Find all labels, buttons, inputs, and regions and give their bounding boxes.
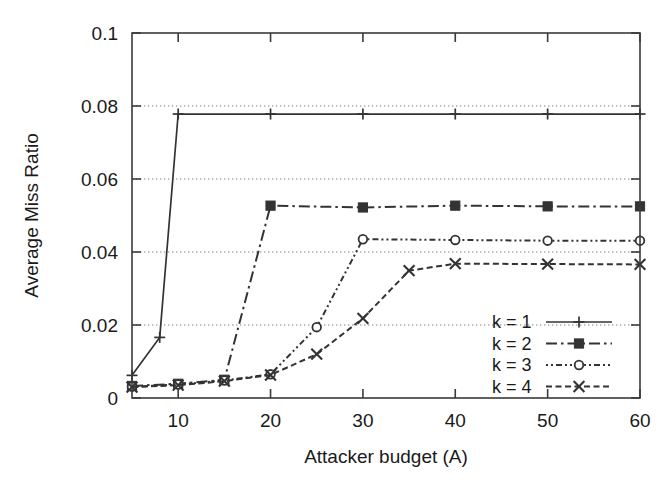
xtick-label-3: 40 bbox=[445, 410, 466, 431]
legend-sample-marker-2 bbox=[574, 339, 583, 348]
ytick-label-4: 0.08 bbox=[81, 96, 118, 117]
axes bbox=[132, 33, 640, 398]
marker-square bbox=[574, 339, 583, 348]
marker-square bbox=[451, 201, 460, 210]
marker-square bbox=[358, 203, 367, 212]
series-1 bbox=[127, 109, 646, 381]
ytick-label-3: 0.06 bbox=[81, 169, 118, 190]
data-point-3-5 bbox=[359, 235, 368, 244]
marker-circle bbox=[451, 236, 460, 245]
marker-square bbox=[266, 201, 275, 210]
data-point-4-4 bbox=[311, 349, 322, 360]
data-point-1-5 bbox=[450, 109, 461, 120]
y-axis-title: Average Miss Ratio bbox=[21, 133, 42, 297]
ytick-label-0: 0 bbox=[107, 388, 118, 409]
data-point-1-4 bbox=[357, 109, 368, 120]
data-point-2-3 bbox=[266, 201, 275, 210]
data-point-4-5 bbox=[358, 313, 369, 324]
xtick-label-1: 20 bbox=[260, 410, 281, 431]
data-point-1-6 bbox=[542, 109, 553, 120]
marker-circle bbox=[359, 235, 368, 244]
series-line-1 bbox=[132, 114, 640, 375]
legend-sample-marker-1 bbox=[574, 317, 585, 328]
ytick-label-1: 0.02 bbox=[81, 315, 118, 336]
data-point-2-5 bbox=[451, 201, 460, 210]
legend-label-1: k = 1 bbox=[492, 312, 532, 332]
data-point-3-6 bbox=[451, 236, 460, 245]
marker-square bbox=[543, 202, 552, 211]
marker-circle bbox=[312, 323, 321, 332]
gridlines bbox=[132, 106, 640, 325]
data-point-3-4 bbox=[312, 323, 321, 332]
x-axis-title: Attacker budget (A) bbox=[304, 446, 468, 467]
data-point-3-7 bbox=[543, 236, 552, 245]
marker-circle bbox=[575, 361, 584, 370]
xtick-label-5: 60 bbox=[629, 410, 650, 431]
xtick-label-4: 50 bbox=[537, 410, 558, 431]
data-series-group bbox=[127, 109, 646, 393]
legend-entry-1: k = 1 bbox=[492, 312, 612, 332]
legend-entry-4: k = 4 bbox=[492, 377, 612, 397]
legend-label-4: k = 4 bbox=[492, 377, 532, 397]
plot-frame bbox=[132, 33, 640, 398]
xtick-label-0: 10 bbox=[168, 410, 189, 431]
line-chart: 00.020.040.060.080.1102030405060Attacker… bbox=[0, 0, 665, 483]
legend-label-3: k = 3 bbox=[492, 355, 532, 375]
series-3 bbox=[128, 235, 645, 391]
chart-figure: 00.020.040.060.080.1102030405060Attacker… bbox=[0, 0, 665, 483]
tick-labels: 00.020.040.060.080.1102030405060Attacker… bbox=[21, 23, 651, 467]
ytick-label-2: 0.04 bbox=[81, 242, 118, 263]
legend-entry-2: k = 2 bbox=[492, 334, 612, 354]
legend-entry-3: k = 3 bbox=[492, 355, 612, 375]
xtick-label-2: 30 bbox=[352, 410, 373, 431]
series-line-3 bbox=[132, 239, 640, 386]
data-point-2-4 bbox=[358, 203, 367, 212]
data-point-1-2 bbox=[173, 109, 184, 120]
data-point-1-3 bbox=[265, 109, 276, 120]
legend-sample-marker-3 bbox=[575, 361, 584, 370]
ytick-label-5: 0.1 bbox=[92, 23, 118, 44]
marker-circle bbox=[543, 236, 552, 245]
legend-label-2: k = 2 bbox=[492, 334, 532, 354]
data-point-2-6 bbox=[543, 202, 552, 211]
